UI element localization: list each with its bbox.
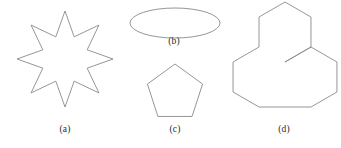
figure-label-b: (b) — [156, 36, 192, 47]
figure-label-d: (d) — [266, 124, 302, 135]
figure-label-a: (a) — [47, 124, 83, 135]
figure-container: (a) (b) (c) (d) — [0, 0, 341, 148]
shape-ellipse — [130, 8, 220, 38]
shape-eight-pointed-star — [17, 11, 113, 107]
shape-regular-pentagon — [147, 64, 202, 116]
figure-label-c: (c) — [157, 124, 193, 135]
shape-tri-hexagon-cluster — [233, 2, 337, 107]
